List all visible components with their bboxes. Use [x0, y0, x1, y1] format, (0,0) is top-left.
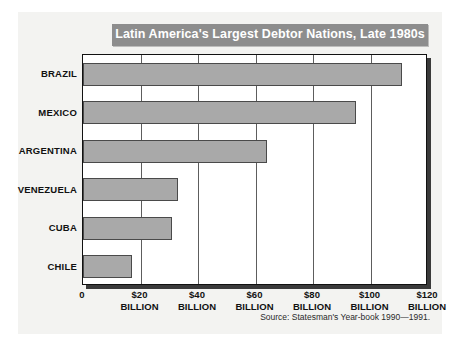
gridline — [256, 55, 257, 284]
category-axis-labels: BRAZILMEXICOARGENTINAVENEZUELACUBACHILE — [0, 55, 77, 286]
plot-area: BRAZILMEXICOARGENTINAVENEZUELACUBACHILE — [83, 55, 426, 284]
category-label: MEXICO — [0, 107, 77, 118]
x-tick-unit: BILLION — [392, 301, 458, 313]
category-label: VENEZUELA — [0, 184, 77, 195]
plot-frame: BRAZILMEXICOARGENTINAVENEZUELACUBACHILE — [82, 54, 427, 285]
chart-title-banner: Latin America's Largest Debtor Nations, … — [112, 24, 428, 46]
chart-title: Latin America's Largest Debtor Nations, … — [112, 27, 428, 41]
gridline — [371, 55, 372, 284]
gridline — [198, 55, 199, 284]
gridline — [141, 55, 142, 284]
x-tick-label: $120BILLION — [392, 289, 458, 312]
bar — [83, 217, 172, 240]
category-label: CHILE — [0, 261, 77, 272]
category-label: BRAZIL — [0, 68, 77, 79]
category-label: CUBA — [0, 222, 77, 233]
source-note: Source: Statesman's Year-book 1990—1991. — [0, 312, 430, 322]
bar — [83, 178, 178, 201]
category-label: ARGENTINA — [0, 145, 77, 156]
bar — [83, 63, 402, 86]
bar — [83, 140, 267, 163]
chart-figure: Latin America's Largest Debtor Nations, … — [0, 0, 458, 346]
bar — [83, 255, 132, 278]
gridline — [313, 55, 314, 284]
bar — [83, 101, 356, 124]
